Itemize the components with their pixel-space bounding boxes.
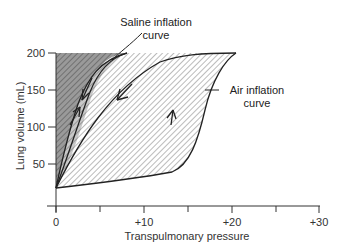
y-tick-200: 200 (27, 47, 45, 59)
x-tick-0: 0 (53, 216, 59, 228)
air-annotation-line1: Air inflation (230, 84, 284, 96)
y-tick-50: 50 (33, 158, 45, 170)
y-ticks (48, 53, 56, 164)
saline-annotation-line1: Saline inflation (120, 16, 192, 28)
x-axis-label: Transpulmonary pressure (125, 230, 250, 242)
y-tick-150: 150 (27, 84, 45, 96)
y-tick-100: 100 (27, 121, 45, 133)
chart-svg: 200 150 100 50 0 +10 +20 +30 Transpulmon… (0, 0, 344, 245)
x-tick-10: +10 (135, 216, 154, 228)
x-tick-20: +20 (223, 216, 242, 228)
saline-annotation-line2: curve (143, 29, 170, 41)
air-annotation-line2: curve (244, 97, 271, 109)
x-ticks (56, 206, 319, 213)
y-axis-label: Lung volume (mL) (14, 82, 26, 171)
x-tick-30: +30 (310, 216, 329, 228)
